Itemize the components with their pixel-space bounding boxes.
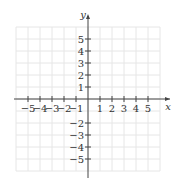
y-tick-label: −3 — [69, 130, 84, 141]
y-tick-label: −5 — [69, 154, 84, 165]
x-tick-label: 2 — [109, 103, 115, 114]
y-tick-label: 2 — [78, 70, 84, 81]
y-tick-label: 5 — [78, 34, 84, 45]
x-tick-label: −1 — [69, 103, 84, 114]
y-tick-label: −2 — [69, 118, 84, 129]
y-axis-label: y — [79, 9, 86, 20]
x-axis-label: x — [165, 101, 171, 112]
y-tick-label: 3 — [78, 58, 84, 69]
y-tick-label: 4 — [78, 46, 84, 57]
x-tick-label: 5 — [145, 103, 151, 114]
coordinate-plane: −5−4−3−2−11234554321−2−3−4−5xy — [0, 0, 178, 181]
x-tick-label: 3 — [121, 103, 127, 114]
y-axis-arrow-icon — [86, 14, 90, 19]
x-tick-label: 4 — [133, 103, 139, 114]
x-tick-label: 1 — [97, 103, 103, 114]
y-tick-label: −4 — [69, 142, 84, 153]
y-tick-label: 1 — [78, 82, 84, 93]
